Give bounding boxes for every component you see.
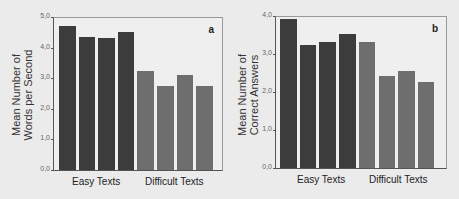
panel-label-b: b [432, 23, 438, 34]
bar-easy-1 [59, 26, 76, 170]
bar-easy-2 [300, 45, 317, 168]
bar-easy-4 [339, 34, 356, 168]
chart-panel-a: Mean Number of Words per Second 0,01,02,… [0, 0, 229, 199]
plot-area-b: b [275, 16, 447, 169]
bar-easy-3 [319, 42, 336, 168]
bar-difficult-1 [359, 42, 376, 168]
bar-difficult-4 [196, 86, 213, 170]
bar-easy-3 [98, 38, 115, 170]
bar-difficult-4 [418, 82, 435, 168]
bar-difficult-2 [157, 86, 174, 170]
group-label-easy-b: Easy Texts [297, 174, 345, 185]
y-axis-label-line2: Correct Answers [248, 40, 260, 150]
group-label-difficult-a: Difficult Texts [145, 176, 204, 187]
bar-easy-2 [79, 37, 96, 170]
y-tick-label: 4,0 [28, 43, 50, 50]
y-tick-label: 0,0 [250, 163, 272, 170]
y-tick-label: 2,0 [28, 104, 50, 111]
y-tick-label: 1,0 [250, 125, 272, 132]
bar-difficult-3 [398, 71, 415, 168]
bar-difficult-3 [177, 75, 194, 170]
y-tick-label: 2,0 [250, 87, 272, 94]
chart-panel-b: Mean Number of Correct Answers 0,01,02,0… [229, 0, 459, 199]
bar-difficult-2 [379, 76, 396, 168]
y-tick-label: 4,0 [250, 11, 272, 18]
y-axis-label-b: Mean Number of Correct Answers [236, 40, 262, 150]
plot-area-a: a [53, 17, 223, 171]
group-label-difficult-b: Difficult Texts [369, 174, 428, 185]
y-tick-label: 0,0 [28, 165, 50, 172]
y-tick-label: 3,0 [250, 49, 272, 56]
group-label-easy-a: Easy Texts [72, 176, 120, 187]
bar-easy-1 [280, 19, 297, 168]
y-axis-label-line1: Mean Number of [10, 40, 22, 150]
bar-easy-4 [118, 32, 135, 170]
y-tick-label: 5,0 [28, 12, 50, 19]
y-axis-label-line1: Mean Number of [236, 40, 248, 150]
y-tick-label: 1,0 [28, 134, 50, 141]
bar-difficult-1 [137, 71, 154, 170]
y-tick-label: 3,0 [28, 73, 50, 80]
panel-label-a: a [208, 24, 214, 35]
